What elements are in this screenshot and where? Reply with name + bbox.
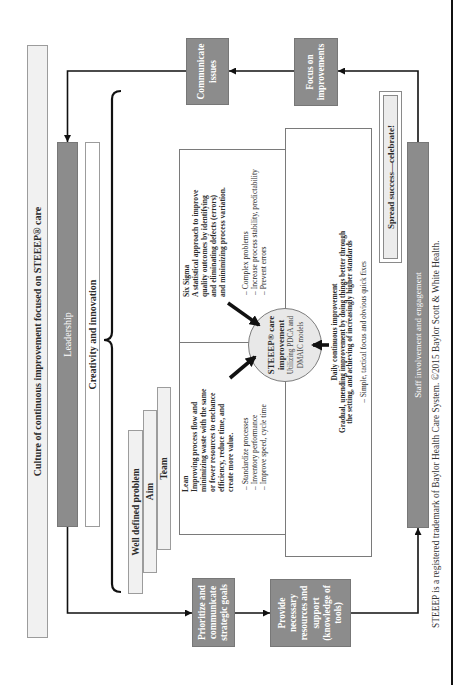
box-line: (knowledge of (322, 585, 333, 641)
circle-subtitle-line: Utilizing PDCA and (286, 316, 296, 374)
box-line: support (311, 598, 322, 629)
box-line: improvements (316, 44, 327, 101)
culture-bar-label: Culture of continuous improvement focuse… (32, 207, 44, 476)
daily-description-line: the setting, and achieving of increasing… (346, 219, 354, 445)
daily-bullet: – Simple, tactical focus and obvious qui… (360, 219, 368, 445)
lean-bullet: – Inventory performance (250, 404, 259, 490)
circle-title-line: STEEEP® care (266, 316, 276, 374)
stack-well-defined-problem: Well defined problem (128, 430, 143, 594)
leadership-label: Leadership (62, 312, 74, 356)
box-line: communicate (208, 586, 219, 639)
six-sigma-bullet: – Prevent errors (259, 169, 268, 295)
six-sigma-description-line: quality outcomes by identifying (200, 187, 209, 297)
box-line: Prioritize and (197, 585, 208, 640)
lean-title: Lean (181, 389, 190, 492)
creativity-label: Creativity and innovation (87, 280, 99, 390)
box-line: necessary (288, 594, 299, 632)
staff-involvement-bar: Staff involvement and engagement (407, 142, 429, 528)
lean-bullet: – Standardize processes (241, 404, 250, 490)
focus-improvements-box: Focus on improvements (294, 38, 338, 106)
stack-label: Well defined problem (130, 468, 142, 555)
leadership-bar: Leadership (57, 142, 78, 527)
provide-resources-box: Provide necessary resources and support … (270, 579, 351, 647)
box-line: Communicate (196, 44, 207, 100)
creativity-bar: Creativity and innovation (85, 142, 100, 527)
stack-aim: Aim (143, 410, 157, 573)
page-frame-line (451, 0, 453, 685)
six-sigma-title: Six Sigma (182, 187, 191, 297)
six-sigma-description-line: A statistical approach to improve (191, 187, 200, 297)
stack-team: Team (157, 387, 171, 550)
curly-brace-icon (104, 91, 121, 592)
lean-bullets: – Standardize processes – Inventory perf… (241, 404, 268, 490)
lean-panel: Lean Improving process flow and minimizi… (181, 389, 235, 492)
lean-description-line: create more value. (226, 389, 235, 492)
box-line: tools) (333, 602, 344, 624)
six-sigma-panel: Six Sigma A statistical approach to impr… (182, 187, 227, 297)
staff-label: Staff involvement and engagement (412, 272, 424, 398)
spread-success-label: Spread success—celebrate! (385, 125, 397, 229)
culture-bar: Culture of continuous improvement focuse… (27, 45, 48, 638)
six-sigma-bullet: – Complex problems (241, 169, 250, 295)
circle-subtitle-line: DMAIC models (296, 322, 306, 369)
daily-panel: Daily continuous improvement Gradual, un… (331, 219, 367, 445)
steeep-care-circle: STEEEP® care improvement Utilizing PDCA … (248, 308, 322, 382)
arrow-communicate-to-leadership (68, 71, 187, 142)
lean-description-line: or fewer resources to enchance (208, 389, 217, 492)
box-line: strategic goals (219, 584, 230, 641)
box-line: Provide (277, 598, 288, 629)
communicate-issues-box: Communicate issues (186, 38, 229, 105)
spread-success-box: Spread success—celebrate! (383, 95, 398, 259)
six-sigma-description-line: and minimizing process variation. (218, 187, 227, 297)
lean-bullet: – Improve speed, cycle time (259, 404, 268, 490)
lean-description-line: minimizing waste with the same (199, 389, 208, 492)
six-sigma-bullets: – Complex problems – Increase process st… (241, 169, 268, 295)
stack-label: Aim (144, 483, 156, 500)
circle-title-line: improvement (276, 320, 286, 370)
six-sigma-description-line: and eliminating defects (errors) (209, 187, 218, 297)
lean-description-line: efficiency, reduce time, and (217, 389, 226, 492)
methods-divider (179, 342, 249, 343)
six-sigma-bullet: – Increase process stability, predictabi… (250, 169, 259, 295)
box-line: issues (208, 60, 219, 83)
box-line: Focus on (305, 54, 316, 89)
stack-label: Team (158, 457, 170, 479)
trademark-footer: STEEEP is a registered trademark of Bayl… (431, 240, 442, 628)
lean-description-line: Improving process flow and (190, 389, 199, 492)
steeep-diagram: Culture of continuous improvement focuse… (0, 0, 456, 685)
prioritize-goals-box: Prioritize and communicate strategic goa… (192, 578, 235, 647)
box-line: resources and (299, 586, 310, 641)
